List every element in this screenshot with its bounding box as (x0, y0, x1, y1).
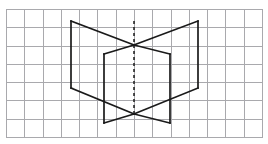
apex-bottom-to-panel-bottom-left (104, 114, 134, 123)
top-left-edge-to-apex (71, 21, 134, 45)
figure-svg (0, 0, 268, 144)
top-right-edge-to-apex (134, 21, 198, 45)
figure-canvas (0, 0, 268, 144)
